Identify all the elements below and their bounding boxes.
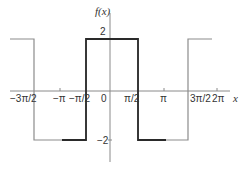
tick-label-y-2: 2	[100, 26, 106, 37]
tick-label-zero: 0	[101, 93, 107, 104]
tick-label-2pi: 2π	[212, 93, 225, 104]
x-axis-label: x	[232, 92, 238, 104]
square-wave-gray	[10, 39, 212, 140]
tick-label-neg-pi-2: −π/2	[69, 93, 91, 104]
tick-label-pi-2: π/2	[124, 93, 140, 104]
square-wave-chart: f(x) x −3π/2 −π −π/2 0 π/2 π 3π/2 2π 2 −…	[0, 0, 245, 169]
square-wave-dark	[62, 39, 166, 140]
tick-label-3pi-2: 3π/2	[190, 93, 211, 104]
tick-label-neg-pi: −π	[53, 93, 66, 104]
tick-label-y-neg-2: −2	[97, 135, 109, 146]
y-axis-label: f(x)	[95, 5, 111, 18]
tick-label-pi: π	[160, 93, 167, 104]
tick-label-neg-3pi-2: −3π/2	[10, 93, 37, 104]
